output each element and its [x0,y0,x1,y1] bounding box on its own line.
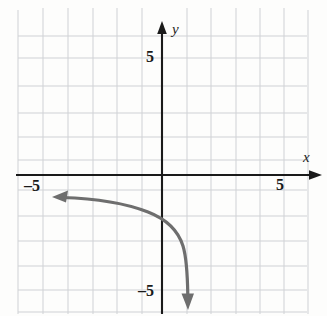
graph-figure: y x 5 –5 5 –5 [0,0,327,316]
x-axis-tick-label-minus-5: –5 [24,178,40,194]
y-axis-tick-label-5: 5 [146,49,154,65]
y-axis-arrowhead-icon [157,21,167,34]
x-axis-arrowhead-icon [309,170,322,180]
x-axis-tick-label-5: 5 [276,177,284,193]
coordinate-plane-svg [0,0,327,316]
curve-path [62,198,188,296]
curve-down-arrowhead-icon [182,294,195,311]
curve-left-arrowhead-icon [52,191,68,203]
axes [16,21,322,314]
x-axis-label: x [303,150,310,165]
y-axis-tick-label-minus-5: –5 [138,283,154,299]
y-axis-label: y [172,22,179,37]
curve-series [52,191,194,311]
